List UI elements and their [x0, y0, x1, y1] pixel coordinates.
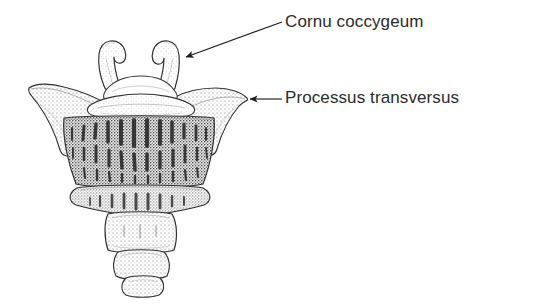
coccyx-illustration: [0, 0, 536, 308]
label-processus-transversus: Processus transversus: [285, 89, 459, 106]
coccyx-bone: [29, 41, 248, 297]
segment-co3: [105, 212, 176, 253]
segment-co2: [70, 185, 210, 216]
leader-line-cornu-coccygeum: [186, 22, 282, 57]
coccyx-figure: Cornu coccygeum Processus transversus: [0, 0, 536, 308]
leader-lines: [186, 22, 282, 99]
segment-co1: [64, 116, 215, 188]
label-cornu-coccygeum: Cornu coccygeum: [285, 13, 424, 30]
segment-co4: [114, 250, 170, 298]
